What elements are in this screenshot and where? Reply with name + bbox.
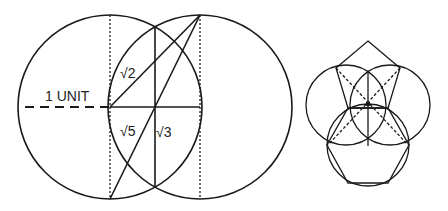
sqrt3-label: √3	[156, 124, 172, 140]
sqrt5-label: √5	[120, 123, 136, 139]
unit-label: 1 UNIT	[45, 88, 90, 104]
left-construction	[18, 15, 292, 199]
sqrt2-label: √2	[120, 65, 136, 81]
center-point	[366, 102, 370, 106]
right-construction	[306, 41, 430, 186]
geometry-diagram: 1 UNIT √2 √5 √3	[0, 0, 448, 211]
